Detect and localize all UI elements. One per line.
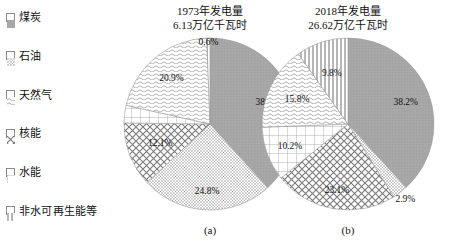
legend-label-nuclear: 核能 [19,127,41,139]
legend-item-coal[interactable]: 煤炭 [6,10,106,24]
pie-slice-label: 10.2% [278,141,303,151]
legend-item-oil[interactable]: 石油 [6,49,106,63]
legend-item-non-hydro-renewables[interactable]: 非水可再生能等 [6,204,106,218]
pie-slice-label: 0.6% [199,37,219,47]
legend-label-non-hydro-renewables: 非水可再生能等 [19,205,97,217]
legend: 煤炭 石油 天然气 核能 水能 [6,10,106,218]
pie-slice-label: 12.1% [148,138,173,148]
pie-svg-b: 38.2%2.9%23.1%10.2%15.8%9.8% [260,36,436,212]
legend-swatch-nuclear-icon [6,129,15,138]
legend-swatch-coal-icon [6,13,15,22]
legend-swatch-hydro-icon [6,168,15,177]
legend-label-oil: 石油 [19,50,41,62]
pie-slice-label: 23.1% [325,185,350,195]
legend-label-natural-gas: 天然气 [19,89,53,101]
chart-title-b-line2: 26.62万亿千瓦时 [248,18,448,32]
chart-title-b: 2018年发电量 26.62万亿千瓦时 [248,4,448,32]
chart-caption-b: (b) [248,224,448,236]
pie-slice-label: 9.8% [322,68,342,78]
legend-swatch-natural-gas-icon [6,90,15,99]
legend-item-natural-gas[interactable]: 天然气 [6,88,106,102]
chart-panel-b: 2018年发电量 26.62万亿千瓦时 38.2%2.9%23.1%10.2%1… [248,0,448,250]
pie-slice-label: 24.8% [195,186,220,196]
legend-swatch-non-hydro-renewables-icon [6,206,15,215]
chart-title-a-line1: 1973年发电量 [177,5,243,17]
pie-chart-b: 38.2%2.9%23.1%10.2%15.8%9.8% [260,36,436,212]
pie-slice-label: 2.9% [395,194,415,204]
chart-title-b-line1: 2018年发电量 [315,5,381,17]
pie-slice-label: 38.2% [393,97,418,107]
legend-label-hydro: 水能 [19,166,41,178]
pie-slice-label: 15.8% [285,94,310,104]
legend-swatch-oil-icon [6,51,15,60]
pie-slice-label: 20.9% [159,73,184,83]
figure-root: 煤炭 石油 天然气 核能 水能 [0,0,452,250]
legend-label-coal: 煤炭 [19,11,41,23]
legend-item-nuclear[interactable]: 核能 [6,126,106,140]
legend-item-hydro[interactable]: 水能 [6,165,106,179]
